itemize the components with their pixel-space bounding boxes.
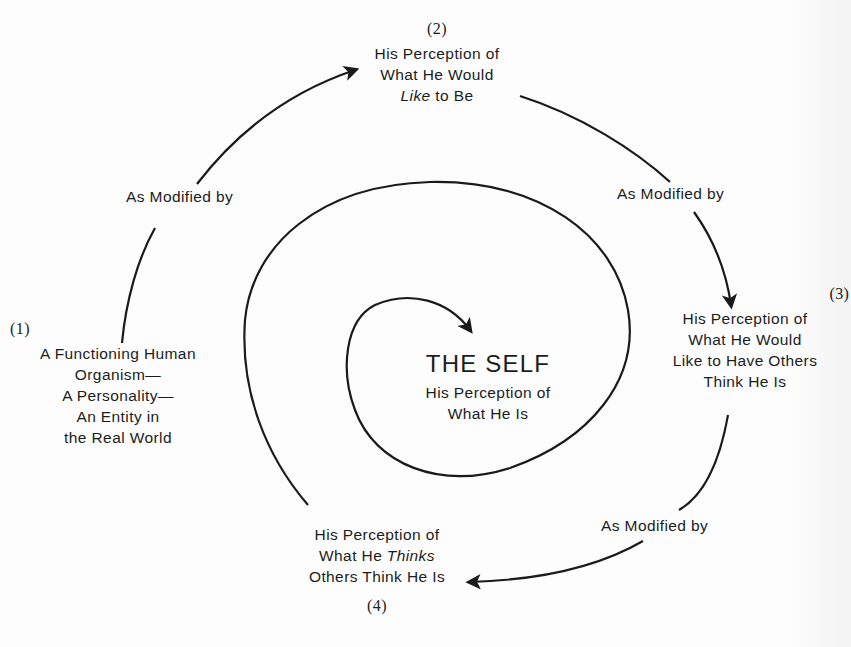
arrow-1-to-2-upper (197, 70, 355, 184)
node-4-line-2: What He Thinks (309, 545, 445, 566)
node-4-number: (4) (309, 595, 445, 616)
node-4-line-1: His Perception of (309, 524, 445, 545)
node-2-line-3-rest: to Be (431, 87, 474, 104)
node-4: His Perception of What He Thinks Others … (309, 524, 445, 616)
node-4-line-2-pre: What He (319, 547, 387, 564)
arrow-3-to-4-upper (679, 415, 728, 510)
node-2-line-3: Like to Be (375, 85, 500, 106)
node-1-line-4: An Entity in (40, 406, 196, 427)
node-1-line-5: the Real World (40, 427, 196, 448)
node-1-number: (1) (10, 318, 196, 339)
node-3: (3) His Perception of What He Would Like… (673, 283, 818, 392)
node-3-line-3: Like to Have Others (673, 350, 818, 371)
node-4-line-3: Others Think He Is (309, 566, 445, 587)
center-self: THE SELF His Perception of What He Is (426, 350, 551, 424)
spiral-4-to-self (244, 182, 629, 505)
node-1-line-1: A Functioning Human (40, 343, 196, 364)
node-3-line-1: His Perception of (673, 308, 818, 329)
edge-label-3-to-4: As Modified by (601, 517, 708, 535)
node-2-line-1: His Perception of (375, 43, 500, 64)
diagram-canvas: (2) His Perception of What He Would Like… (0, 0, 851, 647)
self-line-2: What He Is (426, 403, 551, 424)
node-1-line-2: Organism— (40, 364, 196, 385)
self-line-1: His Perception of (426, 382, 551, 403)
node-3-line-4: Think He Is (673, 371, 818, 392)
edge-label-2-to-3: As Modified by (617, 185, 724, 203)
node-2: (2) His Perception of What He Would Like… (375, 18, 500, 106)
node-3-line-2: What He Would (673, 329, 818, 350)
node-1-line-3: A Personality— (40, 385, 196, 406)
node-2-italic-like: Like (401, 87, 431, 104)
arrow-3-to-4-lower (470, 541, 643, 582)
node-2-number: (2) (375, 18, 500, 39)
arrow-2-to-3-upper (520, 96, 670, 182)
edge-label-1-to-2: As Modified by (126, 188, 233, 206)
node-3-number: (3) (673, 283, 850, 304)
node-1: (1) A Functioning Human Organism— A Pers… (40, 318, 196, 448)
self-title: THE SELF (426, 350, 551, 378)
node-4-italic-thinks: Thinks (387, 547, 435, 564)
node-2-line-2: What He Would (375, 64, 500, 85)
